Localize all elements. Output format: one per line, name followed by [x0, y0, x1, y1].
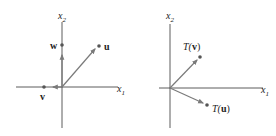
vector-v-label: v — [40, 91, 45, 102]
vector-u-label: u — [104, 41, 110, 52]
vector-tv-label: T(v) — [183, 41, 200, 53]
vector-tv-arrow — [170, 60, 197, 88]
vector-tu-arrow — [170, 88, 203, 103]
vector-tu-label: T(u) — [212, 103, 230, 115]
x1-axis-label: x1 — [116, 83, 125, 97]
x1-axis-label: x1 — [260, 84, 269, 98]
x2-axis-label: x2 — [165, 10, 174, 24]
vector-w-point — [60, 43, 64, 47]
right-panel: x1 x2 T(v) T(u) — [159, 10, 269, 128]
vector-tu-point — [205, 103, 209, 107]
vector-w-label: w — [50, 40, 58, 51]
vector-u-arrow — [62, 49, 95, 87]
vector-v-point — [42, 85, 46, 89]
vector-tv-point — [198, 55, 202, 59]
left-panel: x1 x2 u w v — [16, 10, 125, 128]
x2-axis-label: x2 — [57, 10, 66, 24]
vector-u-point — [97, 44, 101, 48]
linear-transformation-diagram: x1 x2 u w v x1 x2 T(v) T(u) — [0, 0, 276, 136]
